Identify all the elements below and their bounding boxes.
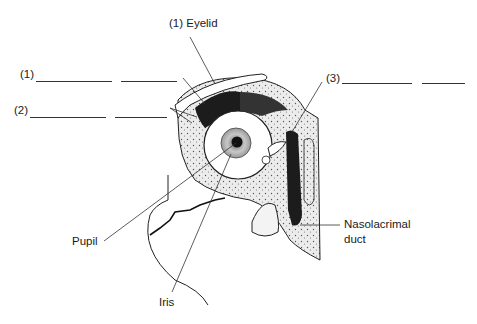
face-outline [148,175,208,305]
pupil-shape [232,137,243,148]
maxillary-sinus [252,203,279,236]
nasal-turbinate [304,138,314,205]
leader-eyelid [190,37,215,84]
blank-2b[interactable] [115,117,167,118]
blank-1a[interactable] [36,81,112,82]
label-nasolacrimal-1: Nasolacrimal [344,218,410,231]
blank-2a[interactable] [30,117,106,118]
label-eyelid: (1) Eyelid [169,17,218,30]
punctum [262,156,270,164]
blank-3b[interactable] [422,83,465,84]
label-blank2-prefix: (2) [14,104,28,117]
label-blank3-prefix: (3) [326,72,340,85]
label-nasolacrimal-2: duct [344,233,366,246]
blank-1b[interactable] [121,81,177,82]
label-pupil: Pupil [72,235,98,248]
label-iris: Iris [159,296,174,309]
blank-3a[interactable] [342,83,412,84]
label-blank1-prefix: (1) [20,68,34,81]
eye-anatomy-drawing [0,0,477,324]
